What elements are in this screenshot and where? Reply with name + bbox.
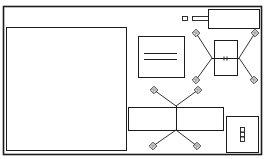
connector-tab <box>193 17 209 21</box>
pad-icon <box>192 29 199 36</box>
lead <box>176 130 197 146</box>
pad-icon <box>193 142 200 149</box>
left-panel <box>7 28 127 151</box>
lead <box>153 130 176 146</box>
pad-icon <box>192 76 199 83</box>
label-plate-frame <box>139 37 185 78</box>
cross-component-right <box>192 29 258 83</box>
terminal-cell-icon <box>241 137 245 142</box>
layout-diagram <box>0 0 275 159</box>
diagram-canvas: board outline large panel connector bloc… <box>0 0 275 159</box>
pad-icon <box>150 86 157 93</box>
terminal-frame <box>227 117 259 153</box>
terminal-block <box>227 117 259 153</box>
pad-icon <box>251 29 258 36</box>
lead <box>196 33 212 58</box>
terminal-cell-icon <box>241 132 245 137</box>
pad-icon <box>194 86 201 93</box>
pad-icon <box>250 76 257 83</box>
lead <box>239 33 255 58</box>
pad-icon <box>149 142 156 149</box>
lead <box>154 90 176 106</box>
connector-block <box>209 10 260 29</box>
bar-component-bottom <box>129 86 224 149</box>
lead <box>196 58 212 80</box>
small-square-icon <box>183 17 188 21</box>
lead <box>239 58 254 80</box>
terminal-cell-icon <box>241 128 245 133</box>
label-plate <box>139 37 185 78</box>
lead <box>176 90 198 106</box>
